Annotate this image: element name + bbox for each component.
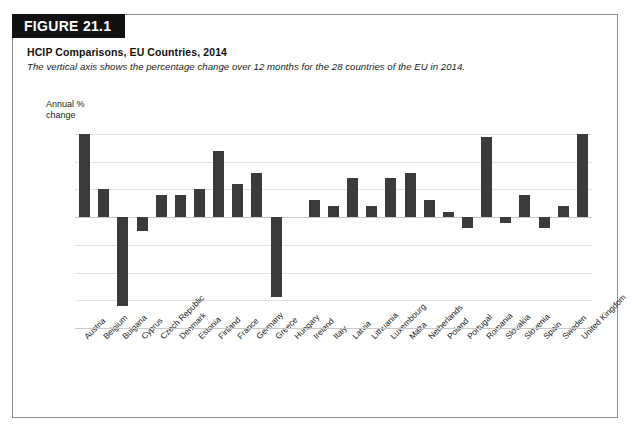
figure-title: HCIP Comparisons, EU Countries, 2014 [27, 46, 227, 58]
bar [577, 134, 588, 217]
gridline [75, 189, 592, 190]
bar [443, 212, 454, 218]
bar [462, 217, 473, 228]
bar [98, 189, 109, 217]
bar [117, 217, 128, 306]
bar [213, 151, 224, 218]
gridline [75, 162, 592, 163]
bar [251, 173, 262, 217]
figure-card: FIGURE 21.1 HCIP Comparisons, EU Countri… [12, 14, 618, 418]
bar [539, 217, 550, 228]
gridline [75, 300, 592, 301]
bar [328, 206, 339, 217]
bar [175, 195, 186, 217]
x-axis-line [75, 328, 592, 329]
bar [366, 206, 377, 217]
figure-banner: FIGURE 21.1 [12, 14, 125, 38]
gridline [75, 134, 592, 135]
bar [271, 217, 282, 297]
bar [79, 134, 90, 217]
gridline [75, 217, 592, 218]
bar [309, 200, 320, 217]
bar [137, 217, 148, 231]
figure-number-label: FIGURE 21.1 [24, 19, 111, 33]
x-axis-tick-label: Latvia [350, 318, 373, 341]
gridline [75, 245, 592, 246]
bar [347, 178, 358, 217]
bar [405, 173, 416, 217]
bar [519, 195, 530, 217]
bar-chart-plot-area: 1.51.00.50.0–0.5–1.0–1.5–2.0 AustriaBelg… [75, 120, 592, 328]
bar [385, 178, 396, 217]
bar [424, 200, 435, 217]
bar [232, 184, 243, 217]
figure-subtitle: The vertical axis shows the percentage c… [27, 61, 465, 72]
y-axis-title: Annual % change [46, 99, 85, 120]
bar [481, 137, 492, 217]
bar [500, 217, 511, 223]
gridline [75, 273, 592, 274]
bar [558, 206, 569, 217]
bar [194, 189, 205, 217]
bar [156, 195, 167, 217]
